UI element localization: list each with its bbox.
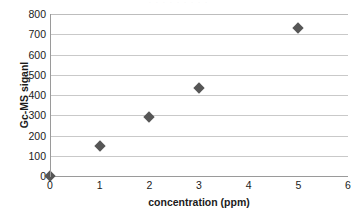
x-tick-label-6: 6 bbox=[333, 180, 358, 191]
x-tick-label-0: 0 bbox=[35, 180, 65, 191]
x-tick-label-5: 5 bbox=[283, 180, 313, 191]
x-tick-label-4: 4 bbox=[234, 180, 264, 191]
x-tick-label-3: 3 bbox=[184, 180, 214, 191]
chart-container: · · · · · · · · · Gc-MS siganl 010020030… bbox=[0, 0, 358, 221]
x-tick-label-1: 1 bbox=[85, 180, 115, 191]
x-axis-tick-labels: 0123456 bbox=[0, 0, 358, 221]
x-axis-title: concentration (ppm) bbox=[50, 196, 348, 208]
x-tick-label-2: 2 bbox=[134, 180, 164, 191]
